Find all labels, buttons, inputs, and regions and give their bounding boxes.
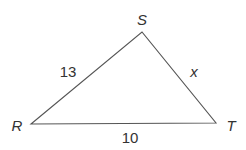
vertex-label-t: T: [226, 118, 235, 133]
side-label-rt: 10: [122, 130, 139, 145]
triangle-diagram: R S T 13 x 10: [0, 0, 246, 150]
side-label-rs: 13: [60, 64, 77, 79]
vertex-label-s: S: [137, 12, 147, 27]
vertex-label-r: R: [12, 118, 23, 133]
side-label-st: x: [190, 64, 198, 79]
triangle-shape: [0, 0, 246, 150]
